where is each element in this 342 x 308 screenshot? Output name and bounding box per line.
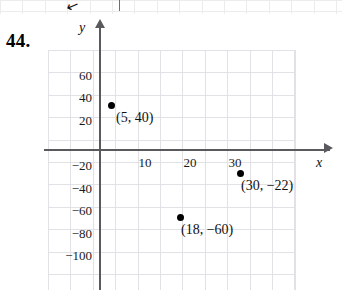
y-tick-label-20: 20 <box>46 113 92 129</box>
data-point-label: (18, −60) <box>181 222 233 238</box>
y-tick-label-neg40: −40 <box>46 181 92 197</box>
y-tick-label-neg100: −100 <box>46 248 92 264</box>
bleed-grid <box>0 0 342 14</box>
data-point <box>177 214 184 221</box>
y-tick-label-neg80: −80 <box>46 226 92 242</box>
y-axis-line <box>99 24 101 290</box>
data-point <box>237 170 244 177</box>
figure-container: ↙ 44. x y 60 40 20 −20 −40 −60 −80 −100 … <box>0 0 342 308</box>
data-point-label: (30, −22) <box>241 178 293 194</box>
y-tick-label-neg20: −20 <box>46 158 92 174</box>
x-axis-label: x <box>316 155 322 171</box>
y-tick-label-40: 40 <box>46 90 92 106</box>
y-axis-arrow-icon <box>95 19 105 28</box>
x-tick-label-30: 30 <box>218 155 252 171</box>
x-axis-arrow-icon <box>324 143 333 153</box>
data-point <box>108 102 115 109</box>
problem-number: 44. <box>6 30 31 52</box>
page-bleed-artifact: ↙ <box>0 0 342 14</box>
x-tick-label-20: 20 <box>173 155 207 171</box>
y-axis-label: y <box>79 20 85 36</box>
data-point-label: (5, 40) <box>116 110 153 126</box>
y-tick-label-neg60: −60 <box>46 203 92 219</box>
x-tick-label-10: 10 <box>128 155 162 171</box>
x-axis-line <box>44 149 330 151</box>
y-tick-label-60: 60 <box>46 68 92 84</box>
bleed-tick-mark <box>119 0 120 11</box>
